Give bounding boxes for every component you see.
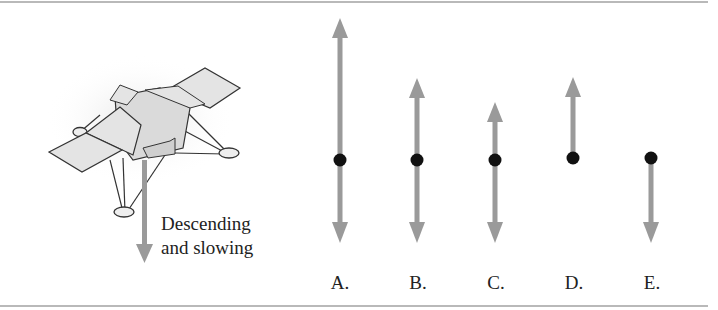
arrow-up-icon (565, 77, 581, 97)
body-dot-icon (489, 154, 502, 167)
arrow-down-icon (409, 222, 425, 243)
option-c-force-diagram (487, 102, 503, 243)
arrow-down-icon (487, 222, 503, 243)
body-dot-icon (645, 152, 658, 165)
arrow-up-icon (332, 18, 348, 38)
caption-line-2: and slowing (161, 236, 253, 260)
option-a-force-diagram (332, 18, 348, 243)
arrow-down-icon (643, 222, 659, 243)
body-dot-icon (334, 154, 347, 167)
option-b-force-diagram (409, 78, 425, 243)
option-c-label: C. (487, 272, 504, 294)
option-d-label: D. (565, 272, 583, 294)
arrow-up-icon (409, 78, 425, 98)
option-d-force-diagram (565, 77, 581, 165)
arrow-up-icon (487, 102, 503, 122)
caption-line-1: Descending (161, 212, 253, 236)
body-dot-icon (411, 154, 424, 167)
option-e-force-diagram (643, 152, 659, 244)
option-a-label: A. (331, 272, 349, 294)
body-dot-icon (567, 152, 580, 165)
option-b-label: B. (409, 272, 426, 294)
diagram-canvas (0, 0, 718, 310)
option-e-label: E. (644, 272, 660, 294)
lander-caption: Descending and slowing (161, 212, 253, 260)
arrow-down-icon (332, 222, 348, 243)
